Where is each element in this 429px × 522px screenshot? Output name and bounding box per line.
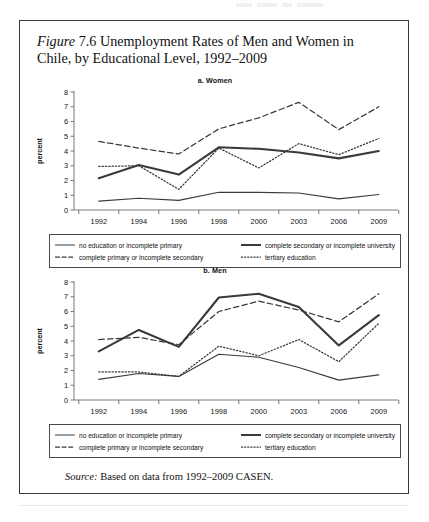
svg-text:1998: 1998 [211,217,227,226]
svg-text:1992: 1992 [91,217,107,226]
legend-men: no education or incomplete primarycomple… [49,424,401,458]
legend-swatch-dashed [55,443,75,451]
svg-text:8: 8 [64,88,68,97]
legend-row: no education or incomplete primarycomple… [55,429,395,441]
legend-swatch-solid-thick [241,241,261,249]
legend-entry-solid-thick[interactable]: complete secondary or incomplete univers… [241,431,395,439]
svg-text:1994: 1994 [131,407,147,416]
svg-text:3: 3 [64,161,68,170]
legend-swatch-solid-thick [241,431,261,439]
legend-label: tertiary education [265,254,316,261]
svg-text:1994: 1994 [131,217,147,226]
legend-label: no education or incomplete primary [79,242,182,249]
svg-text:5: 5 [64,132,68,141]
legend-swatch-solid-thin [55,431,75,439]
svg-text:7: 7 [64,292,68,301]
chart-panel-men: b. Men 012345678percent19921994199619982… [28,266,402,428]
legend-entry-dashed[interactable]: complete primary or incomplete secondary [55,443,241,451]
series-solid-thin [99,192,379,201]
svg-text:2: 2 [64,366,68,375]
svg-text:2009: 2009 [371,407,387,416]
source-text: Based on data from 1992–2009 CASEN. [100,471,273,482]
svg-text:8: 8 [64,278,68,287]
legend-row: complete primary or incomplete secondary… [55,441,395,453]
legend-swatch-solid-thin [55,241,75,249]
legend-swatch-dashed [55,253,75,261]
line-chart-women: 012345678percent199219941996199820002003… [28,86,402,238]
figure-number: 7.6 [79,33,97,49]
legend-label: tertiary education [265,444,316,451]
chart-title-men: b. Men [28,266,402,276]
svg-text:1992: 1992 [91,407,107,416]
legend-entry-solid-thick[interactable]: complete secondary or incomplete univers… [241,241,395,249]
legend-label: complete primary or incomplete secondary [79,444,203,451]
series-solid-thick [99,147,379,178]
legend-entry-dotted[interactable]: tertiary education [241,443,395,451]
series-dotted [99,138,379,189]
svg-text:2: 2 [64,176,68,185]
svg-text:2000: 2000 [251,217,267,226]
series-solid-thin [99,354,379,380]
page-bottom-rule [19,505,409,506]
series-dashed [99,102,379,154]
legend-entry-solid-thin[interactable]: no education or incomplete primary [55,241,241,249]
svg-text:0: 0 [64,396,68,405]
plot-area-men: 012345678percent199219941996199820002003… [28,276,402,428]
figure-box: Figure 7.6 Unemployment Rates of Men and… [19,20,409,494]
svg-text:1998: 1998 [211,407,227,416]
chart-panel-women: a. Women 012345678percent199219941996199… [28,76,402,238]
svg-text:2006: 2006 [331,407,347,416]
svg-text:6: 6 [64,307,68,316]
figure-title: Figure 7.6 Unemployment Rates of Men and… [37,33,387,67]
legend-entry-dotted[interactable]: tertiary education [241,253,395,261]
legend-row: complete primary or incomplete secondary… [55,251,395,263]
legend-label: complete secondary or incomplete univers… [265,242,395,249]
source-label: Source: [65,471,98,482]
legend-women: no education or incomplete primarycomple… [49,234,401,268]
legend-label: complete primary or incomplete secondary [79,254,203,261]
svg-text:1: 1 [64,191,68,200]
svg-text:percent: percent [35,137,44,164]
svg-text:5: 5 [64,322,68,331]
legend-swatch-dotted [241,443,261,451]
source-note: Source: Based on data from 1992–2009 CAS… [65,471,395,482]
svg-text:2006: 2006 [331,217,347,226]
svg-text:2000: 2000 [251,407,267,416]
svg-text:2003: 2003 [291,407,307,416]
legend-swatch-dotted [241,253,261,261]
svg-text:6: 6 [64,117,68,126]
page-root: Figure 7.6 Unemployment Rates of Men and… [0,0,429,522]
svg-text:1996: 1996 [171,217,187,226]
svg-text:7: 7 [64,102,68,111]
svg-text:1996: 1996 [171,407,187,416]
legend-label: complete secondary or incomplete univers… [265,432,395,439]
legend-entry-solid-thin[interactable]: no education or incomplete primary [55,431,241,439]
svg-text:percent: percent [35,327,44,354]
svg-text:3: 3 [64,351,68,360]
svg-text:2003: 2003 [291,217,307,226]
chart-title-women: a. Women [28,76,402,86]
legend-entry-dashed[interactable]: complete primary or incomplete secondary [55,253,241,261]
page-header-fleck [236,3,356,9]
svg-text:4: 4 [64,147,68,156]
legend-row: no education or incomplete primarycomple… [55,239,395,251]
series-solid-thick [99,294,379,352]
svg-text:1: 1 [64,381,68,390]
figure-number-prefix: Figure [37,33,75,49]
svg-text:4: 4 [64,337,68,346]
legend-label: no education or incomplete primary [79,432,182,439]
series-dashed [99,294,379,345]
line-chart-men: 012345678percent199219941996199820002003… [28,276,402,428]
plot-area-women: 012345678percent199219941996199820002003… [28,86,402,238]
svg-text:2009: 2009 [371,217,387,226]
svg-text:0: 0 [64,206,68,215]
